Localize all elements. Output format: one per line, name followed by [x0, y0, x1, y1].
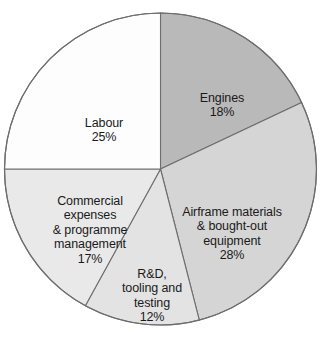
pie-slice-labour	[5, 13, 161, 169]
pie-slice-group	[5, 13, 317, 325]
pie-chart: Engines 18% Airframe materials & bought-…	[0, 0, 328, 345]
pie-chart-svg	[0, 0, 328, 345]
